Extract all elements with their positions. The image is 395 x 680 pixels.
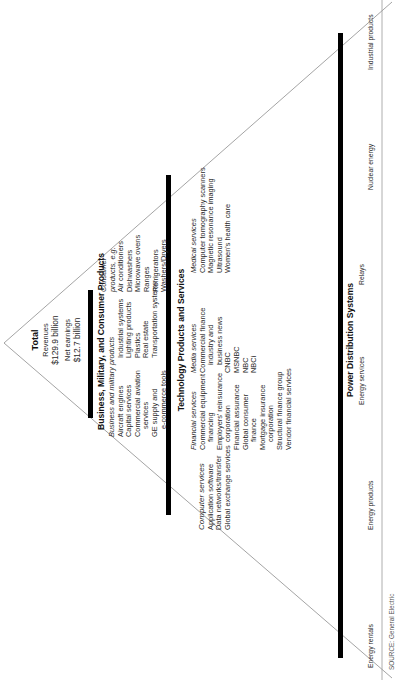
revenues-value: $129.9 billion [51,300,60,380]
earnings-value: $12.7 billion [73,300,82,380]
base-energy-rentals: Energy rentals [367,624,376,668]
power-item-relays: Relays [358,264,367,285]
divider-band-3 [338,33,343,658]
segment1-col3: Consumer products, e.g. Air conditioners… [100,235,169,292]
power-item-energy-services: Energy services [358,357,367,405]
divider-band-1 [88,290,93,418]
segment2-col-computer: Computer services Application software D… [198,445,232,530]
ge-business-pyramid: Total Revenues $129.9 billion Net earnin… [0,0,395,680]
total-title: Total [30,300,40,380]
segment2-col-medical: Medical services Computer tomography sca… [190,167,233,273]
segment1-col2: Industrial systems Lighting products Pla… [117,281,160,358]
base-energy-products: Energy products [367,481,376,531]
source-line: SOURCE: General Electric [388,594,395,670]
base-industrial-products: Industrial products [367,14,376,70]
segment2-col-media: Media services Commercial finance indust… [190,308,259,373]
base-nuclear-energy: Nuclear energy [367,144,376,190]
segment-title-power: Power Distribution Systems [345,240,355,440]
segment2-col-financial: Financial services Commercial equipment … [190,368,293,450]
segment-title-technology: Technology Products and Services [176,200,186,480]
